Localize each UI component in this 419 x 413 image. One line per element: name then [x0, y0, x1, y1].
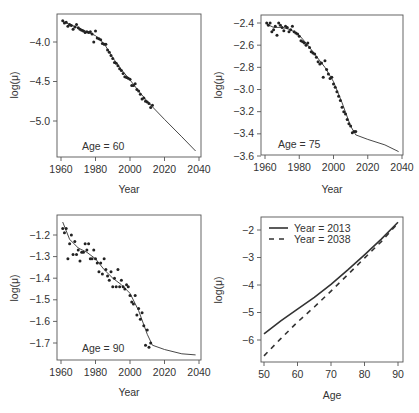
data-point: [96, 262, 99, 265]
data-point: [137, 89, 140, 92]
y-tick-label: −1.7: [29, 337, 50, 349]
data-point: [286, 26, 289, 29]
x-tick-label: 90: [392, 368, 404, 380]
data-point: [127, 285, 130, 288]
data-point: [139, 318, 142, 321]
x-tick-label: 2040: [187, 163, 211, 175]
x-tick-label: 80: [359, 368, 371, 380]
data-point: [335, 90, 338, 93]
data-point: [97, 270, 100, 273]
y-tick-label: −1.3: [29, 250, 50, 262]
data-point: [281, 26, 284, 29]
data-point: [346, 118, 349, 121]
data-point: [111, 57, 114, 60]
data-point: [129, 78, 132, 81]
y-tick-label: −2.4: [233, 17, 254, 29]
data-point: [103, 257, 106, 260]
panel-annotation: Age = 90: [82, 342, 124, 354]
data-point: [330, 76, 333, 79]
y-tick-label: −3: [242, 251, 254, 263]
y-tick-label: −4.0: [29, 36, 50, 48]
data-point: [108, 51, 111, 54]
x-tick-label: 2020: [153, 163, 177, 175]
data-point: [149, 342, 152, 345]
legend-label: Year = 2038: [294, 233, 351, 245]
x-tick-label: 1980: [84, 163, 108, 175]
data-point: [68, 242, 71, 245]
x-tick-label: 50: [258, 368, 270, 380]
data-point: [77, 249, 80, 252]
y-tick-label: −1.5: [29, 293, 50, 305]
y-tick-label: −5: [242, 306, 254, 318]
data-point: [151, 104, 154, 107]
data-point: [269, 22, 272, 25]
data-point: [120, 279, 123, 282]
data-point: [298, 35, 301, 38]
data-point: [354, 130, 357, 133]
x-tick-label: 1980: [288, 161, 312, 173]
data-point: [135, 313, 138, 316]
data-point: [334, 86, 337, 89]
data-point: [323, 59, 326, 62]
data-point: [91, 33, 94, 36]
data-point: [106, 275, 109, 278]
fitted-curve: [267, 24, 399, 152]
data-point: [320, 61, 323, 64]
x-tick-label: 2020: [356, 161, 380, 173]
data-point: [132, 303, 135, 306]
data-point: [141, 311, 144, 314]
data-point: [75, 23, 78, 26]
data-point: [116, 64, 119, 67]
data-point: [87, 242, 90, 245]
data-point: [66, 257, 69, 260]
data-point: [111, 285, 114, 288]
data-point: [110, 54, 113, 57]
y-tick-label: −2.8: [233, 61, 254, 73]
data-point: [63, 231, 66, 234]
data-point: [101, 272, 104, 275]
data-point: [70, 234, 73, 237]
data-point: [84, 242, 87, 245]
y-tick-label: −4.5: [29, 75, 50, 87]
y-tick-label: −6: [242, 334, 254, 346]
data-point: [142, 97, 145, 100]
data-point: [99, 38, 102, 41]
data-point: [116, 268, 119, 271]
data-point: [122, 72, 125, 75]
x-tick-label: 2020: [153, 366, 177, 378]
y-tick-label: −3.6: [233, 150, 254, 162]
data-point: [332, 82, 335, 85]
x-tick-label: 2040: [187, 366, 211, 378]
data-point: [341, 106, 344, 109]
data-point: [73, 240, 76, 243]
x-tick-label: 2040: [390, 161, 414, 173]
data-point: [137, 307, 140, 310]
y-tick-label: −3.2: [233, 105, 254, 117]
data-point: [275, 34, 278, 37]
data-point: [337, 95, 340, 98]
plot-frame: [57, 14, 201, 157]
data-point: [82, 251, 85, 254]
y-tick-label: −1.2: [29, 229, 50, 241]
x-tick-label: 60: [292, 368, 304, 380]
data-point: [92, 41, 95, 44]
y-axis-label: log(μ): [212, 276, 224, 303]
x-tick-label: 2000: [322, 161, 346, 173]
data-point: [108, 279, 111, 282]
chart-panel-bottom-left: 19601980200020202040−1.2−1.3−1.4−1.5−1.6…: [8, 215, 211, 398]
data-point: [147, 346, 150, 349]
data-point: [65, 227, 68, 230]
chart-canvas: 19601980200020202040−4.0−4.5−5.0Yearlog(…: [0, 0, 419, 413]
data-point: [327, 72, 330, 75]
y-tick-label: −4: [242, 279, 254, 291]
y-tick-label: −3.0: [233, 83, 254, 95]
data-point: [344, 112, 347, 115]
data-point: [113, 277, 116, 280]
data-point: [94, 29, 97, 32]
data-point: [123, 288, 126, 291]
data-point: [70, 24, 73, 27]
x-axis-label: Year: [118, 386, 140, 398]
data-point: [92, 249, 95, 252]
data-point: [308, 46, 311, 49]
data-point: [274, 25, 277, 28]
